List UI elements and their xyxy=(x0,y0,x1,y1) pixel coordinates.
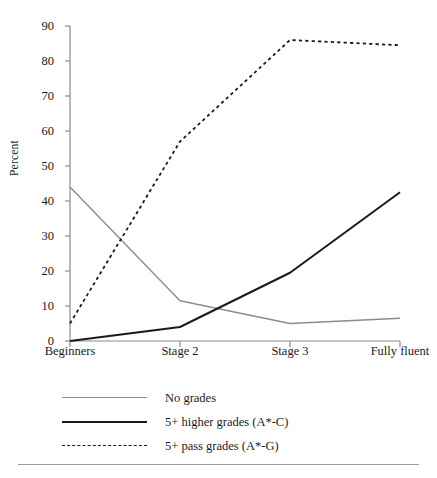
legend-line-swatch xyxy=(62,415,147,429)
chart-legend: No grades5+ higher grades (A*-C)5+ pass … xyxy=(0,386,437,458)
legend-item[interactable]: 5+ pass grades (A*-G) xyxy=(0,434,437,458)
legend-line-swatch xyxy=(62,391,147,405)
series-line-2 xyxy=(70,40,400,324)
legend-line-glyph xyxy=(62,397,147,398)
legend-label: No grades xyxy=(165,391,216,406)
line-chart-svg xyxy=(0,0,437,372)
legend-item[interactable]: No grades xyxy=(0,386,437,410)
legend-line-glyph xyxy=(62,445,147,446)
legend-line-glyph xyxy=(62,421,147,423)
legend-label: 5+ higher grades (A*-C) xyxy=(165,415,288,430)
data-series-group xyxy=(70,40,400,341)
axes-group xyxy=(65,26,400,347)
legend-label: 5+ pass grades (A*-G) xyxy=(165,439,279,454)
series-line-1 xyxy=(70,192,400,341)
series-line-0 xyxy=(70,187,400,324)
legend-item[interactable]: 5+ higher grades (A*-C) xyxy=(0,410,437,434)
chart-plot-area: Percent 0102030405060708090 BeginnersSta… xyxy=(0,0,437,372)
footer-divider xyxy=(18,464,419,465)
legend-line-swatch xyxy=(62,439,147,453)
figure-container: Percent 0102030405060708090 BeginnersSta… xyxy=(0,0,437,478)
